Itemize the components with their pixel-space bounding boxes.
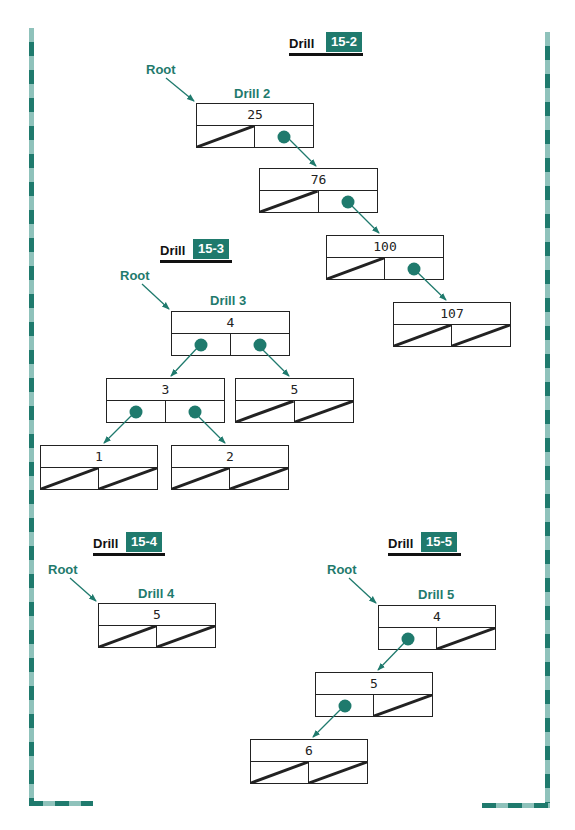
left-null-pointer <box>99 626 157 647</box>
pointer-dot-icon <box>129 405 142 418</box>
node-value: 2 <box>172 446 288 468</box>
tree-node: 6 <box>250 739 368 784</box>
right-pointer <box>255 126 313 147</box>
tree-title: Drill 2 <box>234 86 270 101</box>
right-pointer <box>319 191 378 212</box>
right-null-pointer <box>99 468 157 489</box>
node-value: 76 <box>260 169 377 191</box>
node-value: 5 <box>99 604 215 626</box>
drill-heading-15-3: Drill 15-3 <box>160 237 232 263</box>
drill-word: Drill <box>93 536 118 551</box>
root-arrow <box>349 578 376 603</box>
right-null-pointer <box>157 626 215 647</box>
left-null-pointer <box>260 191 319 212</box>
tree-title: Drill 3 <box>210 293 246 308</box>
drill-heading-15-4: Drill 15-4 <box>93 530 165 556</box>
pointer-dot-icon <box>278 130 291 143</box>
tree-node: 4 <box>171 311 290 356</box>
pointer-dot-icon <box>408 262 421 275</box>
right-null-pointer <box>374 695 432 716</box>
right-null-pointer <box>230 468 288 489</box>
root-label: Root <box>327 562 357 577</box>
tree-node: 4 <box>378 605 496 650</box>
pointer-dot-icon <box>194 338 207 351</box>
left-pointer <box>172 334 231 355</box>
left-pointer <box>316 695 374 716</box>
left-pointer <box>107 401 166 422</box>
left-border <box>29 28 34 804</box>
node-value: 3 <box>107 379 224 401</box>
drill-heading-15-2: Drill 15-2 <box>289 30 363 56</box>
drill-word: Drill <box>160 243 185 258</box>
drill-number-badge: 15-5 <box>421 532 457 552</box>
root-label: Root <box>120 268 150 283</box>
tree-node: 107 <box>393 302 511 347</box>
node-value: 5 <box>236 379 353 401</box>
heading-underline <box>93 553 165 556</box>
drill-word: Drill <box>289 36 314 51</box>
node-value: 5 <box>316 673 432 695</box>
pointer-dot-icon <box>338 699 351 712</box>
right-pointer <box>231 334 290 355</box>
drill-number-badge: 15-2 <box>326 32 362 52</box>
tree-node: 5 <box>315 672 433 717</box>
heading-underline <box>289 53 363 56</box>
tree-node: 76 <box>259 168 378 213</box>
left-null-pointer <box>172 468 230 489</box>
tree-node: 1 <box>40 445 158 490</box>
right-border <box>545 32 550 806</box>
left-null-pointer <box>197 126 255 147</box>
root-arrow <box>142 284 169 309</box>
right-pointer <box>385 258 443 279</box>
heading-underline <box>388 553 461 556</box>
left-null-pointer <box>236 401 295 422</box>
pointer-dot-icon <box>253 338 266 351</box>
heading-underline <box>160 260 232 263</box>
right-null-pointer <box>295 401 354 422</box>
root-label: Root <box>146 62 176 77</box>
node-value: 100 <box>327 236 443 258</box>
node-value: 6 <box>251 740 367 762</box>
left-null-pointer <box>394 325 452 346</box>
right-null-pointer <box>452 325 510 346</box>
node-value: 4 <box>379 606 495 628</box>
tree-title: Drill 5 <box>418 587 454 602</box>
right-pointer <box>166 401 225 422</box>
bottom-left-border <box>29 801 93 806</box>
tree-node: 2 <box>171 445 289 490</box>
node-value: 4 <box>172 312 289 334</box>
root-arrow <box>166 78 194 101</box>
root-arrow <box>70 578 96 601</box>
tree-node: 3 <box>106 378 225 423</box>
node-value: 1 <box>41 446 157 468</box>
right-null-pointer <box>437 628 495 649</box>
left-null-pointer <box>41 468 99 489</box>
pointer-dot-icon <box>341 195 354 208</box>
root-label: Root <box>48 562 78 577</box>
left-null-pointer <box>327 258 385 279</box>
drill-word: Drill <box>388 536 413 551</box>
right-null-pointer <box>309 762 367 783</box>
node-value: 25 <box>197 104 313 126</box>
tree-node: 5 <box>235 378 354 423</box>
tree-node: 25 <box>196 103 314 148</box>
node-value: 107 <box>394 303 510 325</box>
bottom-right-border <box>482 803 550 808</box>
tree-node: 100 <box>326 235 444 280</box>
tree-node: 5 <box>98 603 216 648</box>
drill-heading-15-5: Drill 15-5 <box>388 530 461 556</box>
pointer-dot-icon <box>401 632 414 645</box>
left-null-pointer <box>251 762 309 783</box>
drill-number-badge: 15-4 <box>126 532 162 552</box>
tree-title: Drill 4 <box>138 586 174 601</box>
pointer-dot-icon <box>188 405 201 418</box>
drill-number-badge: 15-3 <box>193 239 229 259</box>
left-pointer <box>379 628 437 649</box>
